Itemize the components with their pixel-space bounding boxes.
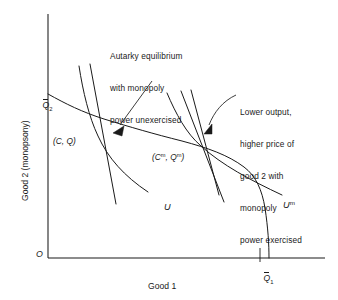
indifference-curve-um-base: U — [283, 200, 290, 210]
monopoly-point-open: (C — [152, 152, 161, 162]
indifference-curve-u-label: U — [164, 202, 171, 214]
y-endpoint-subscript: 2 — [49, 106, 52, 112]
x-axis-title: Good 1 — [148, 281, 176, 292]
monopoly-annotation-line-3: good 2 with — [240, 171, 302, 182]
monopoly-point-label: (Cm, Qm) — [152, 152, 184, 163]
monopoly-point-mid: , Q — [166, 152, 177, 162]
x-endpoint-symbol: Q — [264, 273, 271, 283]
monopoly-annotation: Lower output, higher price of good 2 wit… — [240, 86, 302, 266]
monopoly-point-close: ) — [182, 152, 185, 162]
monopoly-annotation-line-2: higher price of — [240, 139, 302, 150]
y-endpoint-label: Q2 — [33, 89, 53, 124]
price-line-monopoly-b — [191, 90, 219, 195]
leader-line-monopoly — [209, 95, 236, 125]
competitive-point-label: (C, Q) — [53, 136, 76, 147]
x-endpoint-subscript: 1 — [270, 279, 273, 285]
monopoly-annotation-line-1: Lower output, — [240, 107, 302, 118]
monopoly-annotation-line-5: power exercised — [240, 235, 302, 246]
indifference-curve-um-sup: m — [290, 199, 295, 206]
y-endpoint-symbol: Q — [43, 100, 50, 110]
autarky-annotation-line-1: Autarky equilibrium — [110, 51, 182, 62]
origin-label: O — [36, 249, 43, 260]
autarky-annotation-line-2: with monopoly — [110, 83, 182, 94]
economics-diagram: Autarky equilibrium with monopoly power … — [0, 0, 338, 300]
y-axis-title: Good 2 (monopsony) — [20, 120, 31, 201]
arrowhead-monopoly — [204, 124, 212, 134]
autarky-annotation-line-3: power unexercised — [110, 115, 182, 126]
x-endpoint-label: Q1 — [254, 262, 274, 297]
autarky-annotation: Autarky equilibrium with monopoly power … — [110, 30, 182, 147]
indifference-curve-um-label: Um — [283, 199, 295, 212]
price-line-monopoly-a — [181, 91, 224, 202]
